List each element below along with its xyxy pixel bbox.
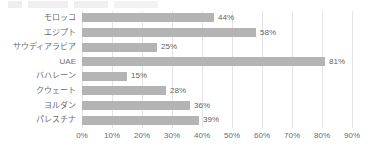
category-label: クウェート: [0, 85, 76, 96]
bar-row: 81%: [82, 55, 372, 70]
bar: [82, 116, 199, 125]
x-tick-label: 0%: [67, 131, 97, 141]
bar: [82, 86, 166, 95]
cropped-text-artifact: [8, 1, 218, 8]
bar-row: 44%: [82, 11, 372, 26]
bar-row: 28%: [82, 84, 372, 99]
bar-row: 25%: [82, 40, 372, 55]
category-label: モロッコ: [0, 12, 76, 23]
bar: [82, 13, 214, 22]
bar-value-label: 44%: [218, 12, 234, 23]
bar: [82, 101, 190, 110]
category-label: エジプト: [0, 27, 76, 38]
x-tick-label: 80%: [307, 131, 337, 141]
bar-value-label: 36%: [194, 100, 210, 111]
category-label: パレスチナ: [0, 114, 76, 125]
bar-value-label: 39%: [203, 114, 219, 125]
bar-value-label: 28%: [170, 85, 186, 96]
x-tick-label: 40%: [187, 131, 217, 141]
x-tick-label: 20%: [127, 131, 157, 141]
bar-value-label: 81%: [329, 56, 345, 67]
x-tick-label: 90%: [337, 131, 367, 141]
category-label: UAE: [0, 56, 76, 67]
x-tick-label: 50%: [217, 131, 247, 141]
bar-value-label: 15%: [131, 70, 147, 81]
x-tick-label: 60%: [247, 131, 277, 141]
x-tick-label: 70%: [277, 131, 307, 141]
bar-value-label: 25%: [161, 41, 177, 52]
bar-chart: モロッコ44%エジプト58%サウディアラビア25%UAE81%バハレーン15%ク…: [0, 0, 372, 149]
bar-row: 36%: [82, 99, 372, 114]
bar: [82, 57, 325, 66]
category-label: サウディアラビア: [0, 41, 76, 52]
bar-row: 58%: [82, 26, 372, 41]
bar-row: 39%: [82, 113, 372, 128]
category-label: バハレーン: [0, 70, 76, 81]
bar: [82, 28, 256, 37]
bar-value-label: 58%: [260, 27, 276, 38]
bar: [82, 72, 127, 81]
x-tick-label: 30%: [157, 131, 187, 141]
category-label: ヨルダン: [0, 100, 76, 111]
x-tick-label: 10%: [97, 131, 127, 141]
bar-row: 15%: [82, 69, 372, 84]
bar: [82, 43, 157, 52]
